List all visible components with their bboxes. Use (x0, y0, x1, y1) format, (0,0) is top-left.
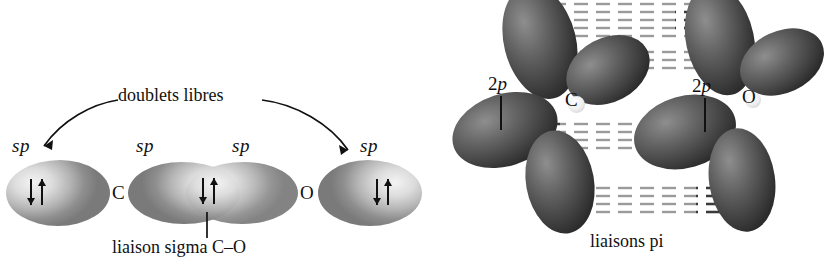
orbital-label-2p-oxygen: 2p (692, 76, 711, 95)
orbital-label-2p-carbon: 2p (488, 74, 507, 93)
pi-caption: liaisons pi (590, 232, 664, 250)
sigma-caption: liaison sigma C–O (112, 238, 246, 256)
leader-line-2p-oxygen (704, 98, 706, 132)
leader-line-2p-carbon (500, 96, 502, 130)
sigma-caption-leader (0, 0, 420, 264)
figure-root: doublets libres sp sp sp sp C O (0, 0, 831, 264)
sigma-panel: doublets libres sp sp sp sp C O (0, 0, 420, 264)
pi-panel: C O 2p 2p liaisons pi (420, 0, 831, 264)
oxygen-2p-orbitals (420, 0, 831, 264)
atom-label-oxygen-pi: O (742, 87, 756, 106)
